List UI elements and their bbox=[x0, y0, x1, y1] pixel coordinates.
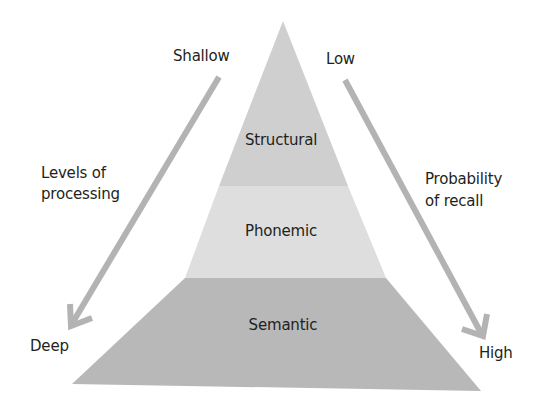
layer-label-phonemic: Phonemic bbox=[245, 222, 317, 240]
layer-label-semantic: Semantic bbox=[249, 316, 318, 334]
probability-of-recall-line1: Probability bbox=[425, 170, 502, 189]
layer-label-structural: Structural bbox=[245, 131, 317, 149]
layer-structural bbox=[219, 21, 348, 186]
probability-of-recall-line2: of recall bbox=[425, 192, 483, 211]
low-label: Low bbox=[326, 50, 355, 69]
deep-label: Deep bbox=[30, 337, 69, 356]
layer-semantic bbox=[72, 278, 481, 391]
high-label: High bbox=[479, 344, 513, 363]
levels-of-processing-line2: processing bbox=[41, 185, 120, 204]
levels-of-processing-line1: Levels of bbox=[41, 164, 106, 183]
shallow-label: Shallow bbox=[173, 47, 230, 66]
